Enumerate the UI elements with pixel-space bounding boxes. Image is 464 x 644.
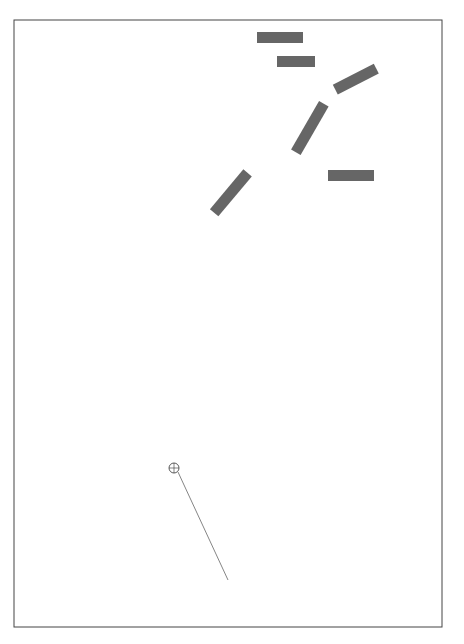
- rh-label: [333, 64, 379, 95]
- psychrometric-chart: [0, 0, 464, 644]
- dp-label: [328, 170, 374, 181]
- enthalpy-label: [210, 169, 252, 216]
- xh-title-label: [277, 56, 315, 67]
- chart-frame: [14, 20, 442, 627]
- wb-label: [291, 101, 329, 155]
- x-title-label: [257, 32, 303, 43]
- protractor-center: [169, 463, 228, 580]
